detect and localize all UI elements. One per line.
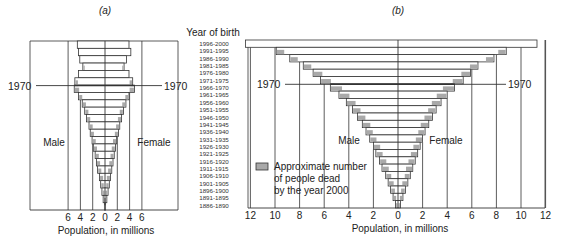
marker-1970-left-label: 1970	[257, 78, 281, 90]
year-of-birth-item: 1911-1915	[199, 165, 229, 172]
legend-line-3: by the year 2000	[274, 185, 349, 196]
dead-segment-female	[130, 88, 134, 92]
bar-row	[245, 40, 537, 47]
year-of-birth-item: 1986-1990	[199, 55, 229, 62]
year-of-birth-item: 1886-1890	[199, 202, 229, 209]
year-of-birth-item: 1951-1955	[199, 106, 229, 113]
bar-row	[80, 56, 127, 63]
year-of-birth-item: 1961-1965	[199, 91, 229, 98]
x-tick-label: 2	[90, 212, 96, 223]
dead-segment-female	[111, 154, 114, 158]
dead-segment-female	[443, 86, 454, 90]
dead-segment-female	[408, 159, 414, 163]
bar-row	[87, 115, 122, 122]
dead-segment-female	[418, 130, 424, 134]
bar-row	[352, 106, 436, 113]
bar-row	[290, 55, 494, 62]
x-tick-label: 6	[139, 212, 145, 223]
year-of-birth-item: 1896-1900	[199, 187, 229, 194]
x-axis-title-a: Population, in millions	[58, 225, 155, 236]
x-tick-label: 12	[540, 210, 552, 221]
bar-row	[321, 77, 464, 84]
x-tick-label: 2	[115, 212, 121, 223]
male-label-b: Male	[338, 135, 360, 146]
legend: Approximate number of people dead by the…	[256, 161, 367, 196]
year-of-birth-item: 1906-1910	[199, 172, 229, 179]
bar-row	[276, 47, 506, 54]
x-tick-label: 12	[245, 210, 257, 221]
dead-segment-female	[125, 95, 128, 99]
female-label-a: Female	[137, 137, 171, 148]
dead-segment-male	[321, 79, 331, 83]
bar-row	[303, 62, 478, 69]
dead-segment-male	[90, 124, 93, 128]
dead-segment-male	[91, 132, 94, 136]
dead-segment-male	[85, 110, 88, 114]
bar-row	[79, 70, 129, 77]
x-axis-title-b: Population, in millions	[352, 223, 449, 234]
x-tick-label: 6	[321, 210, 327, 221]
population-pyramids-figure: (a) (b) Year of birth 642024619701970 12…	[0, 0, 563, 250]
x-tick-label: 4	[127, 212, 133, 223]
marker-1970-right-label: 1970	[508, 78, 532, 90]
dead-segment-male	[277, 50, 284, 54]
dead-segment-male	[367, 130, 373, 134]
x-tick-label: 6	[65, 212, 71, 223]
bar-row	[90, 129, 118, 136]
legend-line-2: of people dead	[274, 173, 340, 184]
year-of-birth-item: 1901-1905	[199, 180, 229, 187]
dead-segment-male	[331, 86, 342, 90]
year-of-birth-item: 1936-1940	[199, 128, 229, 135]
dead-segment-male	[374, 145, 380, 149]
legend-line-1: Approximate number	[274, 161, 367, 172]
dead-segment-female	[107, 176, 110, 180]
x-tick-label: 4	[78, 212, 84, 223]
dead-segment-male	[290, 57, 297, 61]
dead-segment-male	[383, 167, 389, 171]
dead-segment-female	[130, 80, 132, 84]
dead-segment-female	[406, 167, 412, 171]
dead-segment-male	[314, 72, 323, 76]
year-of-birth-item: 1941-1945	[199, 121, 229, 128]
dead-segment-female	[498, 50, 505, 54]
bar-row	[357, 113, 432, 120]
dead-segment-female	[428, 108, 435, 112]
female-label-b: Female	[429, 135, 463, 146]
bar-row	[83, 63, 124, 70]
dead-segment-male	[340, 94, 350, 98]
bar-row	[370, 135, 423, 142]
dead-segment-male	[370, 137, 376, 141]
year-of-birth-item: 1996-2000	[199, 40, 229, 47]
dead-segment-male	[75, 80, 77, 84]
bar-row	[362, 120, 428, 127]
dead-segment-male	[83, 66, 84, 70]
dead-segment-male	[386, 174, 391, 178]
x-tick-label: 2	[420, 210, 426, 221]
x-tick-label: 10	[515, 210, 527, 221]
dead-segment-female	[120, 110, 123, 114]
marker-1970-left-label: 1970	[8, 80, 32, 92]
x-tick-label: 0	[395, 210, 401, 221]
dead-segment-male	[93, 139, 96, 143]
dead-segment-male	[376, 152, 382, 156]
year-of-birth-item: 1956-1960	[199, 99, 229, 106]
dead-segment-female	[413, 145, 419, 149]
dead-segment-male	[396, 203, 397, 207]
dead-segment-male	[347, 101, 356, 105]
panel-b-title: (b)	[392, 5, 404, 16]
dead-segment-male	[87, 117, 90, 121]
dead-segment-female	[399, 203, 400, 207]
dead-segment-female	[421, 123, 428, 127]
bar-row	[339, 91, 447, 98]
year-of-birth-item: 1946-1950	[199, 114, 229, 121]
dead-segment-female	[416, 137, 422, 141]
dead-segment-female	[486, 57, 493, 61]
year-of-birth-item: 1916-1920	[199, 158, 229, 165]
dead-segment-male	[363, 123, 370, 127]
bar-row	[79, 92, 129, 99]
dead-segment-male	[79, 95, 82, 99]
pyramid-chart-a: 642024619701970	[8, 41, 188, 223]
bar-row	[366, 128, 425, 135]
dead-segment-female	[401, 189, 405, 193]
dead-segment-female	[411, 152, 417, 156]
